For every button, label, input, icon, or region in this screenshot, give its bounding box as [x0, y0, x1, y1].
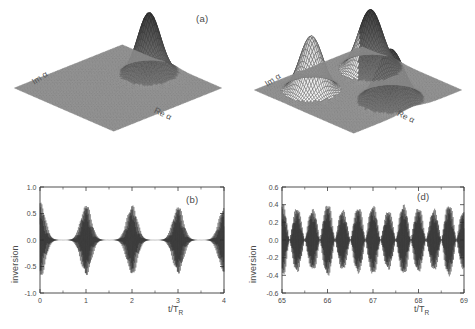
panel-d-y-axis-label: inversion: [248, 245, 258, 283]
panel-d-inversion-plot: -0.6-0.4-0.20.00.20.40.66566676869 (d) i…: [238, 165, 475, 329]
panel-d-canvas: -0.6-0.4-0.20.00.20.40.66566676869: [238, 165, 475, 329]
svg-text:-1.0: -1.0: [24, 290, 36, 297]
panel-a-tag: (a): [196, 13, 209, 24]
panel-b-canvas: -1.0-0.50.00.51.001234: [0, 165, 237, 329]
svg-text:0.0: 0.0: [27, 237, 37, 244]
panel-b-x-num: t: [168, 304, 171, 314]
panel-b-x-sub: R: [179, 309, 184, 316]
panel-d-x-axis-label: t/TR: [414, 304, 429, 316]
svg-text:-0.6: -0.6: [266, 290, 278, 297]
panel-d-tag: (d): [417, 191, 430, 202]
svg-text:-0.5: -0.5: [24, 263, 36, 270]
svg-text:-0.2: -0.2: [266, 254, 278, 261]
svg-text:2: 2: [130, 297, 134, 304]
svg-text:4: 4: [222, 297, 226, 304]
svg-text:67: 67: [369, 297, 377, 304]
panel-c-surface-plot: (c) Im α Re α: [238, 0, 475, 165]
panel-b-tag: (b): [186, 194, 199, 205]
svg-text:0: 0: [38, 297, 42, 304]
svg-text:1: 1: [84, 297, 88, 304]
svg-text:0.5: 0.5: [27, 210, 37, 217]
svg-text:0.0: 0.0: [269, 237, 279, 244]
svg-text:0.4: 0.4: [269, 201, 279, 208]
figure-root: (a) Im α Re α (c) Im α Re α -1.0-0.50.00…: [0, 0, 475, 329]
svg-text:0.2: 0.2: [269, 219, 279, 226]
svg-text:-0.4: -0.4: [266, 272, 278, 279]
svg-text:65: 65: [278, 297, 286, 304]
svg-text:69: 69: [460, 297, 468, 304]
svg-text:66: 66: [324, 297, 332, 304]
panel-b-y-axis-label: inversion: [10, 245, 20, 283]
panel-d-x-num: t: [414, 304, 417, 314]
svg-text:3: 3: [176, 297, 180, 304]
panel-b-x-axis-label: t/TR: [168, 304, 183, 316]
panel-b-inversion-plot: -1.0-0.50.00.51.001234 (b) inversion t/T…: [0, 165, 237, 329]
svg-text:68: 68: [415, 297, 423, 304]
panel-a-surface-plot: (a) Im α Re α: [0, 0, 237, 165]
panel-d-x-sub: R: [425, 309, 430, 316]
svg-text:0.6: 0.6: [269, 184, 279, 191]
svg-text:1.0: 1.0: [27, 184, 37, 191]
